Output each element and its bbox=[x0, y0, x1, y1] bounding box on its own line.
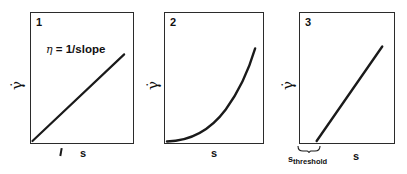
panel-2-ylabel: γ̇ bbox=[146, 81, 161, 90]
panel-3-xlabel: s bbox=[353, 151, 359, 162]
panel-3-ylabel: γ̇ bbox=[281, 81, 296, 90]
eta-symbol: η bbox=[46, 43, 53, 56]
panel-3-frame bbox=[299, 12, 395, 144]
panel-2-frame bbox=[164, 12, 264, 144]
panel-3-threshold-label: sthreshold bbox=[288, 155, 327, 164]
rheology-figure: 1 η = 1/slope γ̇ s 2 γ̇ s 3 γ̇ sthreshol… bbox=[0, 0, 407, 174]
panel-3-number: 3 bbox=[305, 17, 311, 28]
panel-3-threshold-brace bbox=[297, 145, 321, 153]
panel-1-annotation: η = 1/slope bbox=[46, 44, 105, 56]
panel-2-xlabel: s bbox=[211, 148, 217, 159]
panel-1-curve bbox=[31, 13, 133, 143]
panel-1-xaxis-tick bbox=[59, 148, 62, 156]
eta-equation-text: = 1/slope bbox=[53, 43, 106, 55]
threshold-subscript-text: threshold bbox=[293, 157, 327, 166]
panel-2-curve bbox=[165, 13, 263, 143]
panel-2-number: 2 bbox=[170, 17, 176, 28]
panel-1-xlabel: s bbox=[80, 148, 86, 159]
panel-1-number: 1 bbox=[36, 17, 42, 28]
panel-3-curve bbox=[300, 13, 394, 143]
panel-1-ylabel: γ̇ bbox=[10, 81, 25, 90]
panel-1-frame bbox=[30, 12, 134, 144]
